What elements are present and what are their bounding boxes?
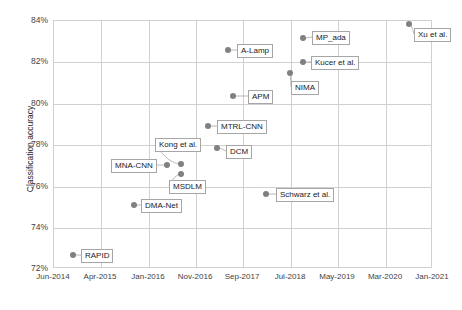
data-point-dma-net[interactable]: [131, 202, 137, 208]
data-label-kucer-et-al[interactable]: Kucer et al.: [311, 56, 359, 70]
data-label-schwarz-et-al[interactable]: Schwarz et al.: [276, 188, 334, 202]
data-label-dcm[interactable]: DCM: [226, 145, 252, 159]
data-label-apm[interactable]: APM: [248, 90, 273, 104]
data-point-schwarz-et-al[interactable]: [263, 191, 269, 197]
data-point-kucer-et-al[interactable]: [300, 59, 306, 65]
data-point-nima[interactable]: [287, 70, 293, 76]
data-point-apm[interactable]: [230, 93, 236, 99]
data-point-kong-et-al[interactable]: [178, 161, 184, 167]
data-label-xu-et-al[interactable]: Xu et al.: [414, 28, 451, 42]
data-label-msdlm[interactable]: MSDLM: [169, 180, 206, 194]
data-label-mna-cnn[interactable]: MNA-CNN: [111, 159, 157, 173]
data-point-msdlm[interactable]: [178, 171, 184, 177]
data-point-a-lamp[interactable]: [225, 47, 231, 53]
data-label-kong-et-al[interactable]: Kong et al.: [155, 138, 201, 152]
scatter-chart: Classification accuracy 84%82%80%78%76%7…: [0, 0, 462, 310]
data-label-dma-net[interactable]: DMA-Net: [141, 199, 182, 213]
data-point-mna-cnn[interactable]: [164, 162, 170, 168]
data-point-rapid[interactable]: [70, 252, 76, 258]
data-point-mp-ada[interactable]: [300, 35, 306, 41]
data-label-a-lamp[interactable]: A-Lamp: [237, 44, 273, 58]
data-label-nima[interactable]: NIMA: [291, 81, 319, 95]
data-point-mtrl-cnn[interactable]: [205, 123, 211, 129]
data-label-rapid[interactable]: RAPID: [81, 249, 113, 263]
data-label-mtrl-cnn[interactable]: MTRL-CNN: [217, 120, 267, 134]
data-label-mp-ada[interactable]: MP_ada: [312, 31, 350, 45]
data-point-xu-et-al[interactable]: [406, 21, 412, 27]
data-point-dcm[interactable]: [214, 145, 220, 151]
